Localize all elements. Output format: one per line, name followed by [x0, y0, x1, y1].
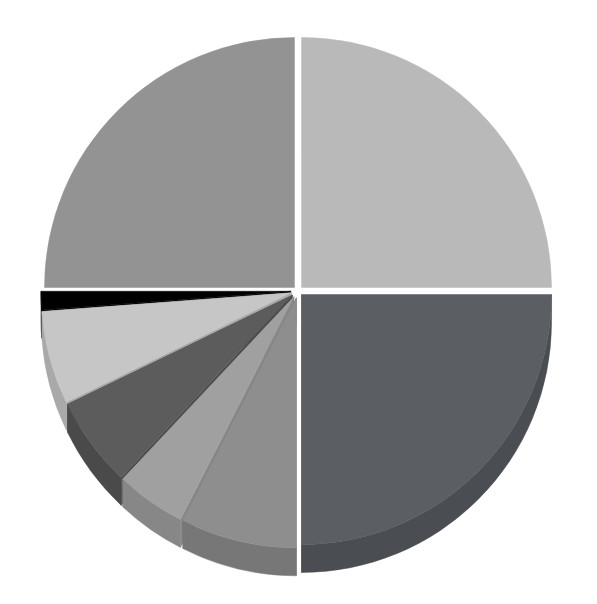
pie-chart-figure — [0, 0, 597, 604]
pie-chart-canvas — [0, 0, 597, 604]
